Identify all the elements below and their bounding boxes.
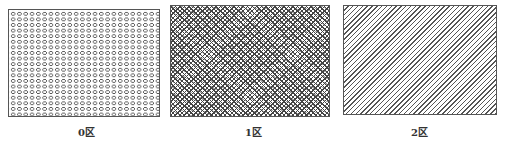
zone-1-pattern-panel xyxy=(170,5,330,117)
zone-1-label: 1区 xyxy=(245,124,262,139)
zone-0-pattern-panel xyxy=(8,9,160,117)
figure-caption xyxy=(0,141,507,150)
zone-2-label: 2区 xyxy=(411,124,428,139)
zone-2-pattern-panel xyxy=(343,5,497,115)
zone-0-label: 0区 xyxy=(78,124,95,139)
